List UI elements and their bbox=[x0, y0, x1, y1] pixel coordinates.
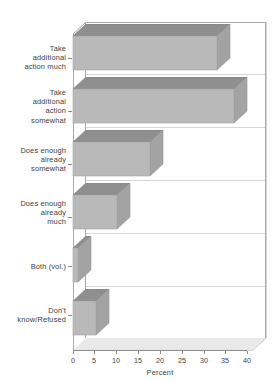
bar-3d-does-enough-already-much bbox=[62, 183, 152, 239]
bar-3d-does-enough-already-somewhat bbox=[62, 130, 182, 186]
category-tick bbox=[68, 266, 72, 267]
category-label-dont-know-refused: Don't know/Refused bbox=[0, 306, 66, 324]
x-tick bbox=[160, 351, 161, 354]
bar-3d-dont-know-refused bbox=[62, 289, 132, 345]
category-tick bbox=[68, 315, 72, 316]
category-label-both-vol: Both (vol.) bbox=[0, 262, 66, 271]
x-tick bbox=[204, 351, 205, 354]
category-label-does-enough-already-much: Does enough already much bbox=[0, 199, 66, 227]
category-tick bbox=[68, 217, 72, 218]
x-tick-label: 15 bbox=[128, 356, 148, 365]
x-tick bbox=[247, 351, 248, 354]
x-tick-label: 35 bbox=[215, 356, 235, 365]
category-tick bbox=[68, 58, 72, 59]
x-axis-title: Percent bbox=[120, 368, 200, 377]
x-tick-label: 10 bbox=[106, 356, 126, 365]
x-tick bbox=[182, 351, 183, 354]
x-tick bbox=[94, 351, 95, 354]
category-label-take-additional-action-much: Take additional action much bbox=[0, 44, 66, 72]
x-tick-label: 20 bbox=[150, 356, 170, 365]
bar-chart: Take additional action much Take additio… bbox=[0, 0, 280, 382]
x-tick-label: 30 bbox=[194, 356, 214, 365]
x-tick bbox=[73, 351, 74, 354]
bar-3d-take-additional-action-somewhat bbox=[62, 77, 262, 133]
x-tick-label: 25 bbox=[172, 356, 192, 365]
x-tick bbox=[138, 351, 139, 354]
x-tick-label: 40 bbox=[237, 356, 257, 365]
x-tick bbox=[225, 351, 226, 354]
bar-3d-both-vol bbox=[62, 236, 122, 292]
category-tick bbox=[68, 164, 72, 165]
category-tick bbox=[68, 111, 72, 112]
bar-3d-take-additional-action-much bbox=[62, 24, 242, 80]
x-tick-label: 0 bbox=[63, 356, 83, 365]
category-label-does-enough-already-somewhat: Does enough already somewhat bbox=[0, 146, 66, 174]
category-label-take-additional-action-somewhat: Take additional action somewhat bbox=[0, 88, 66, 125]
x-tick bbox=[116, 351, 117, 354]
x-tick-label: 5 bbox=[84, 356, 104, 365]
